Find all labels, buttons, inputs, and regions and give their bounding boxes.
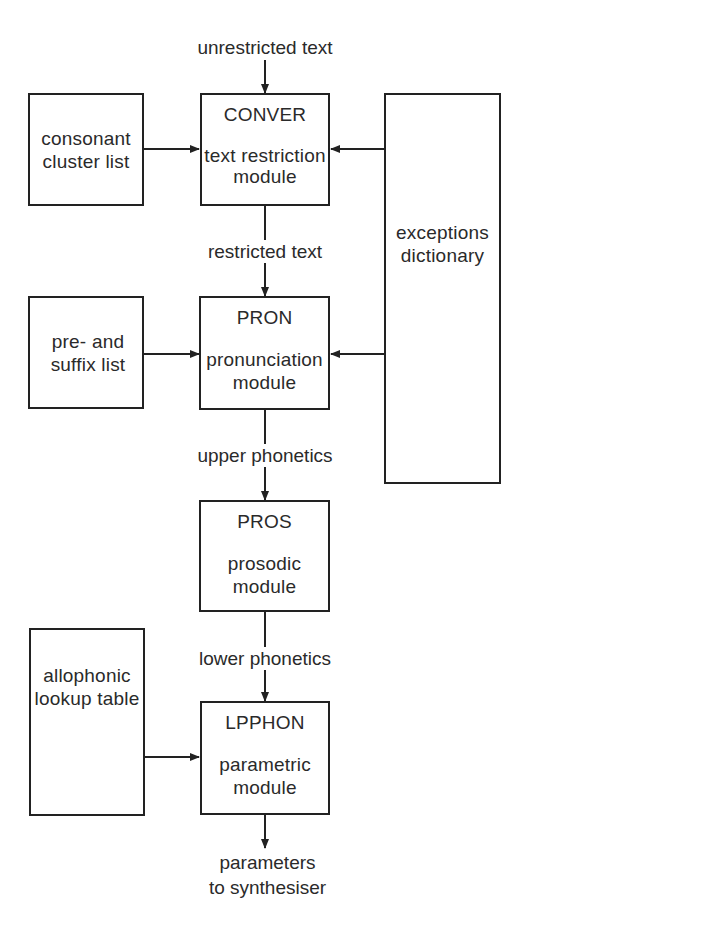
module-pron[interactable]: PRON pronunciation module [199,296,330,410]
resource-label: exceptions dictionary [386,221,499,267]
resource-pre-and-suffix-list[interactable]: pre- and suffix list [28,296,144,409]
module-conver[interactable]: CONVER text restriction module [200,93,330,206]
resource-label: allophonic lookup table [31,664,143,710]
module-desc: parametric module [202,753,328,799]
input-label-unrestricted-text: unrestricted text [190,36,340,59]
resource-exceptions-dictionary[interactable]: exceptions dictionary [384,93,501,484]
module-pros[interactable]: PROS prosodic module [199,500,330,612]
resource-label: consonant cluster list [30,127,142,173]
resource-allophonic-lookup-table[interactable]: allophonic lookup table [29,628,145,816]
edge-label-upper-phonetics: upper phonetics [195,444,335,467]
module-desc: prosodic module [201,552,328,598]
resource-label: pre- and suffix list [32,330,144,376]
edge-label-restricted-text: restricted text [200,240,330,263]
module-name: LPPHON [202,711,328,734]
output-label-parameters-to-synthesiser: parameters to synthesiser [195,850,340,900]
module-desc: pronunciation module [201,348,328,394]
module-lpphon[interactable]: LPPHON parametric module [200,701,330,815]
module-name: PROS [201,510,328,533]
resource-consonant-cluster-list[interactable]: consonant cluster list [28,93,144,206]
edge-label-lower-phonetics: lower phonetics [195,647,335,670]
module-desc: text restriction module [202,145,328,187]
module-name: CONVER [202,103,328,126]
module-name: PRON [201,306,328,329]
